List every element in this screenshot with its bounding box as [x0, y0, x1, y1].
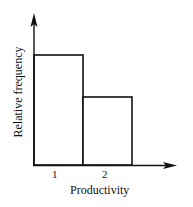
x-tick-1: 1 [52, 168, 58, 180]
y-axis-label: Relative frequency [11, 47, 26, 138]
x-tick-2: 2 [102, 168, 108, 180]
bar-2 [83, 97, 132, 165]
bar-1 [34, 55, 83, 165]
histogram-plot [0, 0, 193, 207]
x-axis-label: Productivity [70, 183, 129, 198]
